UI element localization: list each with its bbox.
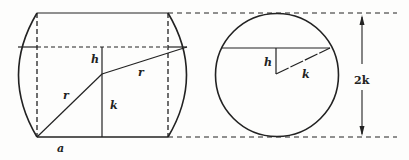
- radius-lower: [37, 74, 102, 137]
- arrow-up-icon: [360, 15, 365, 25]
- circle: [216, 14, 339, 137]
- diagram-canvas: h k r r a h k 2k: [0, 0, 409, 160]
- geometry-figure: h k r r a h k 2k: [0, 0, 409, 160]
- label-2k: 2k: [354, 74, 370, 87]
- label-a: a: [57, 142, 64, 155]
- left-arc: [19, 13, 38, 137]
- label-k-right: k: [302, 68, 310, 81]
- label-r-upper: r: [138, 66, 145, 79]
- radius-upper: [102, 47, 187, 74]
- label-h-left: h: [91, 53, 99, 66]
- arrow-down-icon: [360, 126, 365, 136]
- right-arc: [168, 13, 187, 137]
- label-k-left: k: [110, 99, 118, 112]
- label-r-lower: r: [63, 89, 70, 102]
- label-h-right: h: [264, 56, 272, 69]
